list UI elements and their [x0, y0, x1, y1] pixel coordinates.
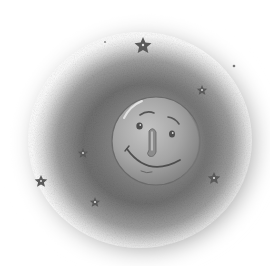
right-eye [169, 131, 175, 138]
star-dot [233, 65, 236, 68]
moon-illustration [0, 0, 270, 266]
left-eye [136, 122, 142, 129]
night-sky-artwork [0, 0, 270, 266]
star-dot [104, 41, 106, 43]
